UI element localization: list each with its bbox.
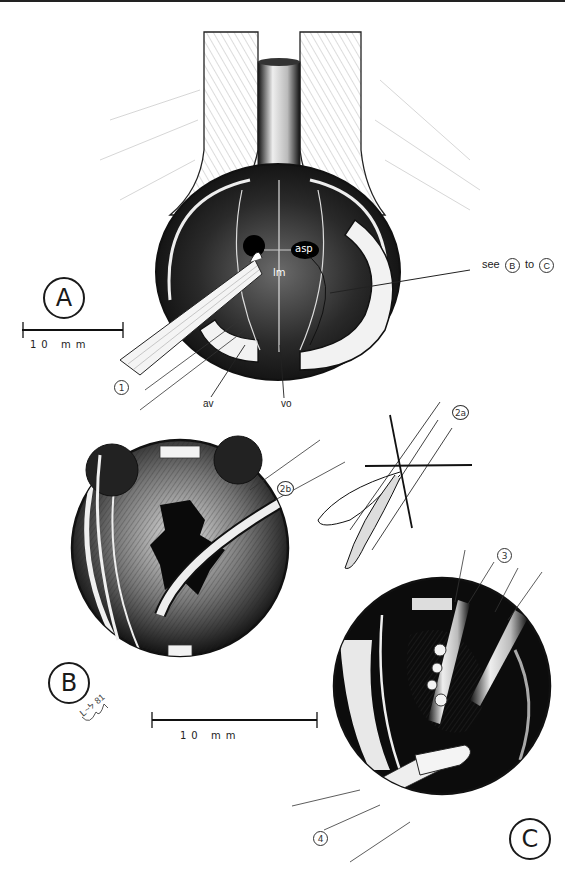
surgical-illustration	[0, 0, 572, 881]
instrument-2a-marker: 2a	[452, 405, 469, 420]
scale-bar-bc-label: 10 mm	[180, 730, 240, 741]
instrument-2b-marker: 2b	[277, 481, 294, 496]
scale-bar-a-label: 10 mm	[30, 339, 90, 350]
see-prefix: see	[482, 258, 500, 270]
panel-ref-c: C	[539, 258, 554, 273]
label-lm: lm	[273, 267, 286, 278]
label-asp: asp	[295, 243, 313, 254]
panel-ref-b: B	[505, 258, 520, 273]
instrument-4-marker: 4	[313, 831, 328, 846]
instrument-3-marker: 3	[497, 548, 512, 563]
see-b-to-c-note: see B to C	[482, 258, 556, 273]
label-av: av	[203, 398, 214, 409]
see-to-word: to	[525, 258, 534, 270]
label-vo: vo	[281, 398, 292, 409]
panel-label-b: B	[48, 662, 90, 704]
instrument-1-marker: 1	[114, 380, 129, 395]
panel-label-a: A	[43, 277, 85, 319]
panel-label-c: C	[509, 818, 551, 860]
